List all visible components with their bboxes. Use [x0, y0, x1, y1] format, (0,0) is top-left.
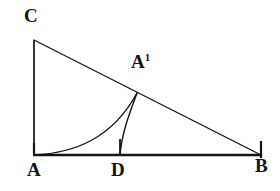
- vertex-label-d: D: [111, 160, 125, 179]
- vertex-label-b: B: [255, 156, 268, 175]
- vertex-label-c: C: [24, 6, 38, 25]
- curve-aprime-to-d: [120, 93, 137, 155]
- vertex-label-a: A: [27, 160, 41, 179]
- figure-canvas: [0, 0, 280, 191]
- vertex-label-a-prime: A1: [131, 52, 150, 71]
- vertex-label-a-prime-base: A: [131, 51, 145, 72]
- vertex-label-a-prime-superscript: 1: [145, 51, 151, 63]
- geometry-figure: C A D B A1: [0, 0, 280, 191]
